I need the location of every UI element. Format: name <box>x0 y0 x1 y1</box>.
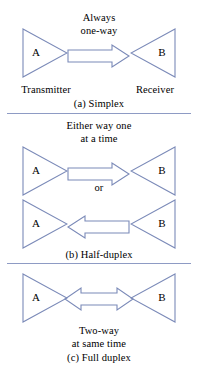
half-duplex-row1-right-letter: B <box>139 165 185 176</box>
half-duplex-row1-left-letter: A <box>13 165 59 176</box>
half-duplex-row2-right-letter: B <box>139 218 185 229</box>
simplex-note-line-1: Always <box>0 12 198 25</box>
simplex-receiver-triangle: B <box>130 28 176 78</box>
simplex-receiver-label: Receiver <box>116 84 194 96</box>
full-duplex-note-line-1: Two-way <box>0 325 198 338</box>
half-duplex-arrow-left-icon <box>68 215 130 239</box>
full-duplex-right-triangle: B <box>130 273 176 323</box>
half-duplex-row2-right-triangle: B <box>130 199 176 249</box>
full-duplex-note-line-2: at same time <box>0 338 198 351</box>
simplex-transmitter-letter: A <box>13 47 59 58</box>
simplex-transmitter-triangle: A <box>22 28 68 78</box>
section-full-duplex: A B Two-way at same time (c) Full duplex <box>0 263 198 377</box>
full-duplex-note: Two-way at same time <box>0 325 198 350</box>
half-duplex-note-line-1: Either way one <box>0 120 198 133</box>
section-simplex: Always one-way A B Transmitter Receiver … <box>0 0 198 113</box>
figure-transmission-modes: Always one-way A B Transmitter Receiver … <box>0 0 198 377</box>
full-duplex-right-letter: B <box>139 292 185 303</box>
half-duplex-note: Either way one at a time <box>0 120 198 145</box>
half-duplex-caption: (b) Half-duplex <box>0 249 198 261</box>
full-duplex-left-letter: A <box>13 292 59 303</box>
half-duplex-connector: or <box>0 182 198 195</box>
simplex-caption: (a) Simplex <box>0 98 198 110</box>
full-duplex-left-triangle: A <box>22 273 68 323</box>
half-duplex-note-line-2: at a time <box>0 133 198 146</box>
simplex-arrow-right-icon <box>68 44 130 68</box>
half-duplex-row2-left-letter: A <box>13 218 59 229</box>
full-duplex-arrow-double-icon <box>64 287 134 311</box>
full-duplex-caption: (c) Full duplex <box>0 352 198 364</box>
half-duplex-row2-left-triangle: A <box>22 199 68 249</box>
simplex-transmitter-label: Transmitter <box>4 84 88 96</box>
simplex-receiver-letter: B <box>139 47 185 58</box>
section-half-duplex: Either way one at a time A B or <box>0 113 198 263</box>
